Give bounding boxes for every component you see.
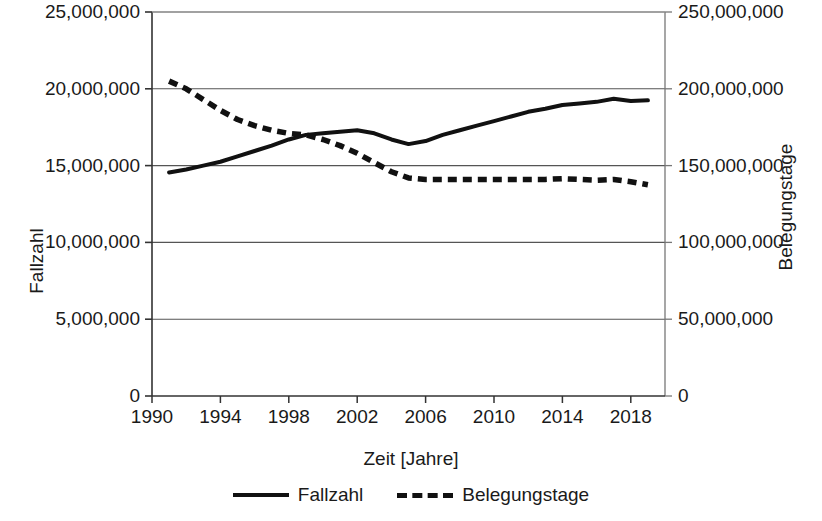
- series-line-fallzahl: [169, 99, 648, 173]
- legend-label-fallzahl: Fallzahl: [298, 484, 363, 506]
- legend-label-belegungstage: Belegungstage: [462, 484, 589, 506]
- y-axis-left-tick-label: 15,000,000: [45, 155, 140, 177]
- series-line-belegungstage: [169, 81, 648, 185]
- y-axis-right-tick-label: 100,000,000: [678, 231, 784, 253]
- chart-container: Fallzahl Belegungstage Zeit [Jahre] 05,0…: [0, 0, 822, 521]
- legend-item-belegungstage: Belegungstage: [397, 484, 589, 506]
- x-axis-tick-label: 2002: [336, 406, 378, 428]
- y-axis-left-tick-label: 5,000,000: [55, 308, 140, 330]
- legend-line-solid-icon: [233, 493, 289, 497]
- y-axis-left-tick-label: 10,000,000: [45, 231, 140, 253]
- y-axis-right-tick-label: 0: [678, 385, 689, 407]
- x-axis-tick-label: 1994: [199, 406, 241, 428]
- x-axis-tick-label: 2006: [404, 406, 446, 428]
- x-axis-tick-label: 1990: [131, 406, 173, 428]
- y-axis-right-tick-label: 50,000,000: [678, 308, 773, 330]
- legend-line-dashed-icon: [397, 493, 453, 498]
- y-axis-left-tick-label: 0: [129, 385, 140, 407]
- y-axis-left-tick-label: 25,000,000: [45, 1, 140, 23]
- gridlines: [152, 12, 665, 319]
- x-axis-tick-label: 2018: [610, 406, 652, 428]
- chart-legend: Fallzahl Belegungstage: [0, 484, 822, 506]
- series-layer: [169, 81, 648, 185]
- x-axis-tick-label: 2014: [541, 406, 583, 428]
- axis-ticks: [145, 12, 672, 403]
- x-axis-tick-label: 1998: [268, 406, 310, 428]
- legend-item-fallzahl: Fallzahl: [233, 484, 363, 506]
- y-axis-right-tick-label: 150,000,000: [678, 155, 784, 177]
- axis-lines: [152, 12, 665, 396]
- x-axis-tick-label: 2010: [473, 406, 515, 428]
- y-axis-right-tick-label: 250,000,000: [678, 1, 784, 23]
- y-axis-left-tick-label: 20,000,000: [45, 78, 140, 100]
- x-axis-title: Zeit [Jahre]: [0, 448, 822, 470]
- y-axis-right-tick-label: 200,000,000: [678, 78, 784, 100]
